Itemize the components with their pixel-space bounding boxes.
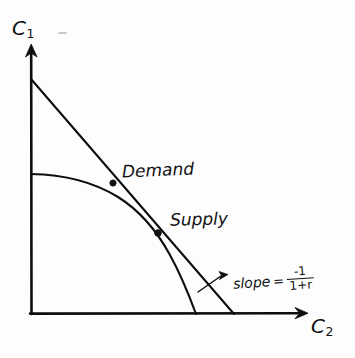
y-axis-label: C1 — [12, 18, 35, 41]
slope-denominator: 1+r — [287, 277, 315, 292]
ppf-curve — [31, 174, 196, 314]
slope-leader-arrowhead — [219, 272, 228, 280]
x-axis-label: C2 — [311, 316, 334, 339]
slope-equals-sign: = — [273, 274, 285, 288]
demand-label: Demand — [122, 160, 195, 180]
slope-word: slope — [233, 274, 271, 291]
supply-point-marker — [155, 230, 162, 237]
stray-pencil-mark — [58, 32, 67, 34]
demand-point-marker — [110, 180, 116, 186]
x-axis-label-subscript: 2 — [325, 324, 333, 339]
y-axis-label-text: C — [12, 16, 26, 40]
supply-label: Supply — [170, 210, 228, 229]
slope-leader-line — [198, 276, 221, 292]
y-axis-label-subscript: 1 — [26, 26, 34, 41]
x-axis-label-text: C — [311, 314, 325, 338]
budget-line — [31, 79, 234, 314]
slope-numerator: -1 — [291, 265, 308, 279]
economics-diagram: C1 C2 Demand Supply slope = -1 1+r — [0, 0, 355, 358]
slope-fraction: -1 1+r — [286, 264, 314, 292]
